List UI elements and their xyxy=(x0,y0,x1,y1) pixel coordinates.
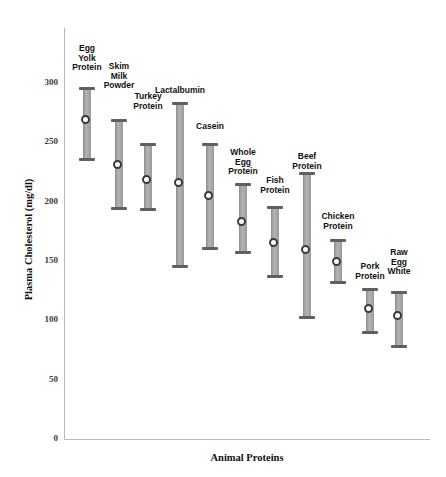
upper-cap xyxy=(140,143,156,146)
y-tick-label: 50 xyxy=(18,374,64,384)
lower-cap xyxy=(267,275,283,278)
data-series: Casein xyxy=(195,0,225,477)
data-series: Beef Protein xyxy=(292,0,322,477)
upper-cap xyxy=(330,239,346,242)
lower-cap xyxy=(330,281,346,284)
upper-cap xyxy=(299,172,315,175)
lower-cap xyxy=(235,251,251,254)
chart-container: Plasma Cholesterol (mg/dl) Animal Protei… xyxy=(0,0,446,477)
upper-cap xyxy=(362,288,378,291)
data-series: Whole Egg Protein xyxy=(228,0,258,477)
data-series: Skim Milk Powder xyxy=(104,0,134,477)
y-axis-line xyxy=(64,28,65,439)
lower-cap xyxy=(79,158,95,161)
upper-cap xyxy=(111,119,127,122)
data-series: Chicken Protein xyxy=(323,0,353,477)
data-series: Fish Protein xyxy=(260,0,290,477)
lower-cap xyxy=(299,316,315,319)
series-label: Raw Egg White xyxy=(362,248,436,277)
lower-cap xyxy=(172,265,188,268)
data-series: Pork Protein xyxy=(355,0,385,477)
lower-cap xyxy=(111,207,127,210)
lower-cap xyxy=(362,331,378,334)
lower-cap xyxy=(140,208,156,211)
lower-cap xyxy=(391,345,407,348)
y-tick-label: 0 xyxy=(18,433,64,443)
y-tick-label: 100 xyxy=(18,314,64,324)
upper-cap xyxy=(267,206,283,209)
y-tick-label: 200 xyxy=(18,196,64,206)
y-tick-label: 250 xyxy=(18,136,64,146)
upper-cap xyxy=(172,102,188,105)
upper-cap xyxy=(391,291,407,294)
mean-marker xyxy=(269,238,278,247)
mean-marker xyxy=(301,245,310,254)
data-series: Turkey Protein xyxy=(133,0,163,477)
y-tick-label: 300 xyxy=(18,77,64,87)
upper-cap xyxy=(202,143,218,146)
lower-cap xyxy=(202,247,218,250)
y-tick-label: 150 xyxy=(18,255,64,265)
mean-marker xyxy=(142,175,151,184)
data-series: Raw Egg White xyxy=(384,0,414,477)
data-series: Lactalbumin xyxy=(165,0,195,477)
